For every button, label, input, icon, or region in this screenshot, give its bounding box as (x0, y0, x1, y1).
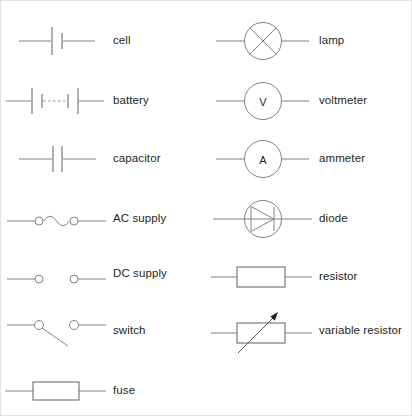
symbol-row-battery: battery (1, 73, 207, 129)
symbol-row-lamp: lamp (207, 13, 412, 69)
symbol-row-diode: diode (207, 191, 412, 247)
symbol-row-resistor: resistor (207, 249, 412, 305)
symbol-label-dc-supply: DC supply (113, 267, 207, 280)
symbol-row-voltmeter: V voltmeter (207, 73, 412, 129)
diode-symbol (207, 191, 319, 247)
symbol-row-cell: cell (1, 13, 207, 69)
fuse-symbol (1, 363, 113, 416)
symbol-label-switch: switch (113, 324, 207, 337)
left-column: cell battery (1, 1, 207, 416)
resistor-symbol (207, 249, 319, 305)
symbol-label-resistor: resistor (319, 270, 412, 283)
ammeter-glyph: A (259, 154, 267, 166)
symbol-label-voltmeter: voltmeter (319, 94, 412, 107)
symbol-label-lamp: lamp (319, 34, 412, 47)
symbol-label-variable-resistor: variable resistor (319, 324, 412, 337)
symbol-label-diode: diode (319, 212, 412, 225)
symbol-label-ac-supply: AC supply (113, 212, 207, 225)
dc-supply-symbol (1, 246, 113, 302)
circuit-symbols-sheet: cell battery (0, 0, 412, 416)
ac-supply-symbol (1, 191, 113, 247)
voltmeter-glyph: V (259, 96, 267, 108)
symbol-row-variable-resistor: variable resistor (207, 303, 412, 359)
symbol-label-cell: cell (113, 34, 207, 47)
lamp-symbol (207, 13, 319, 69)
symbol-row-fuse: fuse (1, 363, 207, 416)
symbol-row-ac-supply: AC supply (1, 191, 207, 247)
symbol-label-ammeter: ammeter (319, 152, 412, 165)
battery-symbol (1, 73, 113, 129)
right-column: lamp V voltmeter A (207, 1, 412, 416)
cell-symbol (1, 13, 113, 69)
symbol-row-switch: switch (1, 303, 207, 359)
switch-symbol (1, 303, 113, 359)
symbol-label-capacitor: capacitor (113, 152, 207, 165)
symbol-row-dc-supply: DC supply (1, 246, 207, 302)
capacitor-symbol (1, 131, 113, 187)
variable-resistor-symbol (207, 303, 319, 359)
symbol-row-ammeter: A ammeter (207, 131, 412, 187)
voltmeter-symbol: V (207, 73, 319, 129)
symbol-row-capacitor: capacitor (1, 131, 207, 187)
ammeter-symbol: A (207, 131, 319, 187)
symbol-label-fuse: fuse (113, 384, 207, 397)
symbol-label-battery: battery (113, 94, 207, 107)
